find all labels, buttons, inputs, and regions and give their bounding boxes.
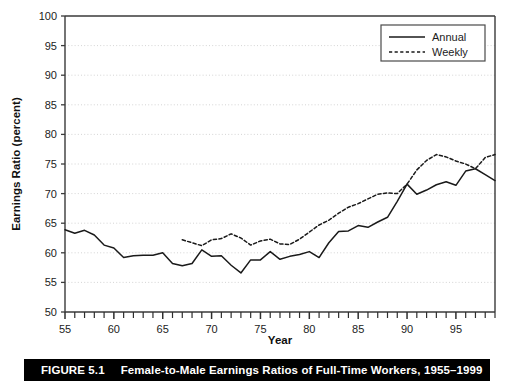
legend-label-annual: Annual — [432, 31, 466, 43]
series-line-annual — [65, 169, 495, 273]
y-tick-label: 80 — [45, 128, 57, 140]
x-tick-label: 80 — [303, 323, 315, 335]
figure-caption-text: Female-to-Male Earnings Ratios of Full-T… — [121, 364, 483, 376]
y-tick-label: 100 — [39, 10, 57, 22]
y-tick-label: 60 — [45, 247, 57, 259]
figure-container: 50556065707580859095100 5560657075808590… — [0, 0, 514, 388]
y-tick-label: 95 — [45, 40, 57, 52]
y-tick-label: 85 — [45, 99, 57, 111]
y-tick-label: 65 — [45, 217, 57, 229]
x-tick-label: 85 — [352, 323, 364, 335]
x-tick-label: 90 — [401, 323, 413, 335]
x-axis-tick-labels: 556065707580859095 — [59, 323, 462, 335]
x-tick-label: 55 — [59, 323, 71, 335]
x-tick-label: 70 — [205, 323, 217, 335]
x-tick-label: 95 — [450, 323, 462, 335]
y-tick-label: 70 — [45, 188, 57, 200]
figure-caption-number: FIGURE 5.1 — [41, 364, 105, 376]
y-axis-title: Earnings Ratio (percent) — [10, 97, 22, 231]
x-axis-ticks — [65, 312, 495, 319]
x-tick-label: 65 — [157, 323, 169, 335]
y-tick-label: 90 — [45, 69, 57, 81]
grid-lines — [65, 46, 495, 283]
y-axis-tick-labels: 50556065707580859095100 — [39, 10, 57, 318]
y-tick-label: 55 — [45, 276, 57, 288]
data-series-group — [65, 155, 495, 273]
y-tick-label: 75 — [45, 158, 57, 170]
x-tick-label: 60 — [108, 323, 120, 335]
legend-label-weekly: Weekly — [432, 46, 468, 58]
chart-legend: AnnualWeekly — [381, 25, 485, 61]
chart-plot-area: 50556065707580859095100 5560657075808590… — [0, 0, 514, 348]
y-tick-label: 50 — [45, 306, 57, 318]
x-axis-title: Year — [268, 334, 293, 346]
figure-caption-bar: FIGURE 5.1 Female-to-Male Earnings Ratio… — [24, 359, 490, 381]
x-tick-label: 75 — [254, 323, 266, 335]
earnings-ratio-line-chart: 50556065707580859095100 5560657075808590… — [0, 0, 514, 348]
